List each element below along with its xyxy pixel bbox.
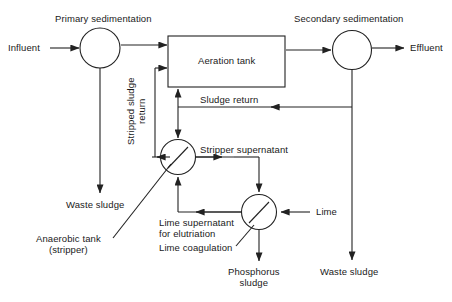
label-lime-supernatant: Lime supernatant for elutriation xyxy=(159,217,234,239)
secondary-sedimentation-node xyxy=(333,31,372,70)
label-influent: Influent xyxy=(8,42,40,53)
label-effluent: Effluent xyxy=(410,42,443,53)
lime-coagulation-leader xyxy=(236,225,254,246)
label-sludge-return: Sludge return xyxy=(200,94,258,105)
label-anaerobic-tank: Anaerobic tank (stripper) xyxy=(36,233,101,255)
label-secondary-sedimentation: Secondary sedimentation xyxy=(294,13,404,24)
label-lime: Lime xyxy=(316,206,337,217)
label-lime-coagulation: Lime coagulation xyxy=(159,242,232,253)
label-aeration-tank: Aeration tank xyxy=(198,55,255,66)
label-phosphorus-sludge: Phosphorus sludge xyxy=(228,266,280,288)
process-flow-diagram: Influent Primary sedimentation Aeration … xyxy=(0,0,452,302)
label-waste-sludge-primary: Waste sludge xyxy=(66,199,124,210)
label-stripper-supernatant: Stripper supernatant xyxy=(200,144,288,155)
label-primary-sedimentation: Primary sedimentation xyxy=(55,13,152,24)
label-stripped-sludge-return: Stripped sludge return xyxy=(125,77,147,145)
label-waste-sludge-secondary: Waste sludge xyxy=(320,266,378,277)
primary-sedimentation-node xyxy=(80,28,120,68)
